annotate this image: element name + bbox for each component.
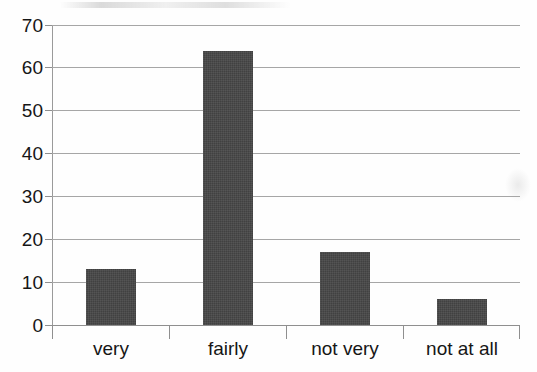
gridline-70 bbox=[52, 25, 520, 26]
gridline-20 bbox=[52, 239, 520, 240]
bar-chart-figure: 010203040506070 veryfairlynot verynot at… bbox=[0, 0, 537, 372]
category-tick-4 bbox=[519, 325, 520, 339]
gridline-60 bbox=[52, 67, 520, 68]
plot-area: 010203040506070 bbox=[52, 25, 520, 325]
y-axis-label-40: 40 bbox=[22, 144, 43, 163]
category-tick-1 bbox=[169, 325, 170, 339]
x-axis-label-very: very bbox=[93, 339, 129, 358]
bar-very[interactable] bbox=[86, 269, 136, 325]
x-axis-labels: veryfairlynot verynot at all bbox=[52, 339, 520, 369]
y-axis-label-50: 50 bbox=[22, 101, 43, 120]
y-tick-30 bbox=[45, 196, 52, 197]
category-tick-0 bbox=[52, 325, 53, 339]
gridline-50 bbox=[52, 110, 520, 111]
bar-not-very[interactable] bbox=[320, 252, 370, 325]
y-axis-label-30: 30 bbox=[22, 187, 43, 206]
y-tick-40 bbox=[45, 153, 52, 154]
x-axis-label-not-at-all: not at all bbox=[426, 339, 498, 358]
gridline-40 bbox=[52, 153, 520, 154]
bar-fairly[interactable] bbox=[203, 51, 253, 325]
y-axis-label-20: 20 bbox=[22, 230, 43, 249]
x-axis-label-not-very: not very bbox=[311, 339, 379, 358]
y-tick-60 bbox=[45, 67, 52, 68]
category-tick-3 bbox=[403, 325, 404, 339]
y-axis-label-60: 60 bbox=[22, 58, 43, 77]
y-axis-line bbox=[52, 25, 53, 326]
gridline-30 bbox=[52, 196, 520, 197]
y-axis-label-70: 70 bbox=[22, 16, 43, 35]
y-tick-20 bbox=[45, 239, 52, 240]
y-tick-70 bbox=[45, 25, 52, 26]
y-tick-10 bbox=[45, 282, 52, 283]
y-axis-label-0: 0 bbox=[32, 316, 43, 335]
category-tick-2 bbox=[286, 325, 287, 339]
bar-not-at-all[interactable] bbox=[437, 299, 487, 325]
y-axis-label-10: 10 bbox=[22, 273, 43, 292]
scan-artifact-top bbox=[60, 2, 290, 8]
y-tick-0 bbox=[45, 325, 52, 326]
y-tick-50 bbox=[45, 110, 52, 111]
x-axis-label-fairly: fairly bbox=[208, 339, 248, 358]
